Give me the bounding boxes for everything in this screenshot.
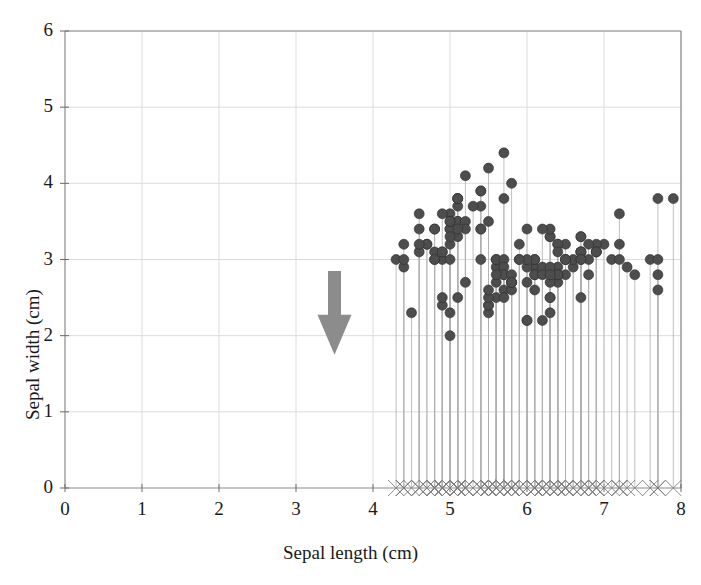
data-point: [522, 224, 532, 234]
data-point: [414, 224, 424, 234]
data-point: [622, 262, 632, 272]
x-axis-title: Sepal length (cm): [0, 542, 701, 564]
x-tick-label: 5: [435, 498, 465, 520]
data-point: [399, 239, 409, 249]
data-point: [437, 247, 447, 257]
data-point: [537, 224, 547, 234]
x-tick-label: 2: [204, 498, 234, 520]
x-tick-label: 6: [512, 498, 542, 520]
y-tick-label: 2: [27, 324, 53, 346]
data-point: [553, 247, 563, 257]
x-tick-label: 0: [50, 498, 80, 520]
data-point: [584, 270, 594, 280]
y-tick-label: 6: [27, 19, 53, 41]
data-point: [653, 270, 663, 280]
data-point: [468, 201, 478, 211]
x-tick-label: 8: [666, 498, 696, 520]
y-tick-label: 5: [27, 95, 53, 117]
data-point: [453, 293, 463, 303]
data-point: [453, 224, 463, 234]
data-point: [445, 331, 455, 341]
x-tick-label: 1: [127, 498, 157, 520]
data-point: [576, 232, 586, 242]
data-point: [514, 239, 524, 249]
data-point: [491, 270, 501, 280]
data-point: [522, 277, 532, 287]
data-point: [576, 255, 586, 265]
data-point: [584, 239, 594, 249]
data-point: [545, 270, 555, 280]
data-point: [430, 255, 440, 265]
data-point: [591, 247, 601, 257]
data-point: [653, 285, 663, 295]
data-point: [430, 224, 440, 234]
data-point: [499, 293, 509, 303]
data-point: [668, 194, 678, 204]
x-tick-label: 4: [358, 498, 388, 520]
data-point: [499, 194, 509, 204]
data-point: [484, 216, 494, 226]
data-point: [522, 315, 532, 325]
data-point: [414, 239, 424, 249]
data-point: [437, 293, 447, 303]
drop-lines: [396, 153, 673, 488]
data-point: [445, 255, 455, 265]
y-tick-label: 4: [27, 171, 53, 193]
data-point: [453, 194, 463, 204]
data-point: [653, 194, 663, 204]
data-point: [653, 255, 663, 265]
y-tick-label: 0: [27, 476, 53, 498]
y-tick-label: 1: [27, 400, 53, 422]
scatter-plot-figure: Sepal length (cm) Sepal width (cm) 01234…: [0, 0, 701, 585]
data-point: [545, 293, 555, 303]
data-point: [460, 171, 470, 181]
data-point: [484, 285, 494, 295]
data-point: [614, 255, 624, 265]
data-point: [537, 315, 547, 325]
data-point: [630, 270, 640, 280]
data-point: [484, 163, 494, 173]
down-arrow-icon: [318, 271, 352, 355]
data-point: [445, 308, 455, 318]
data-point: [407, 308, 417, 318]
data-point: [445, 232, 455, 242]
data-point: [507, 277, 517, 287]
data-point: [507, 178, 517, 188]
data-point: [576, 293, 586, 303]
data-point: [476, 186, 486, 196]
data-point: [561, 255, 571, 265]
data-point: [514, 255, 524, 265]
data-point: [460, 277, 470, 287]
data-point: [530, 285, 540, 295]
data-point: [445, 216, 455, 226]
data-point: [614, 239, 624, 249]
data-point: [499, 148, 509, 158]
data-point: [614, 209, 624, 219]
data-point: [545, 308, 555, 318]
annotation-layer: [318, 271, 352, 355]
data-point: [399, 255, 409, 265]
data-point: [414, 209, 424, 219]
x-tick-label: 7: [589, 498, 619, 520]
data-point: [476, 224, 486, 234]
x-tick-label: 3: [281, 498, 311, 520]
y-tick-label: 3: [27, 248, 53, 270]
data-point: [476, 255, 486, 265]
data-point: [437, 209, 447, 219]
